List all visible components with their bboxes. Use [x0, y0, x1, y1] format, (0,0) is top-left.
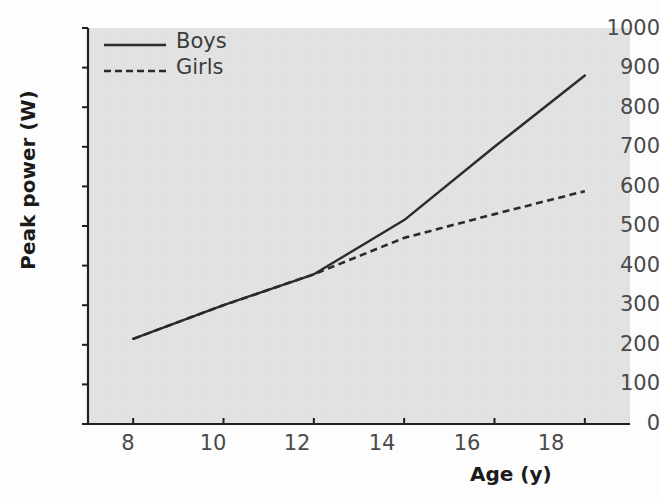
axis-lines — [88, 28, 630, 424]
series-line-girls — [133, 191, 585, 339]
chart-canvas — [0, 0, 660, 498]
chart-figure: 1000 900 800 700 600 500 400 300 200 100… — [0, 0, 660, 498]
